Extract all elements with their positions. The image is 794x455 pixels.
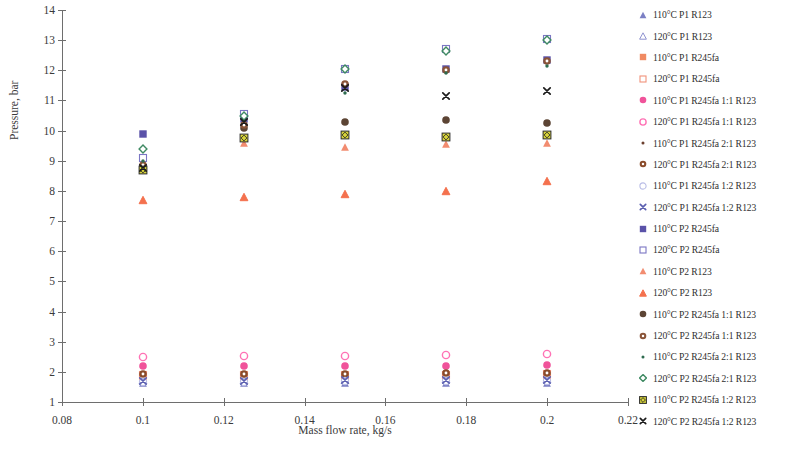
y-tick [58, 221, 66, 222]
y-tick-label: 9 [49, 155, 55, 167]
legend-item[interactable]: 120°C P1 R123 [636, 25, 794, 46]
legend-item[interactable]: 110°C P2 R245fa 1:1 R123 [636, 303, 794, 324]
legend-item-label: 110°C P2 R123 [653, 266, 712, 277]
legend-item[interactable]: 110°C P1 R245fa [636, 47, 794, 68]
data-point [138, 164, 147, 173]
data-point [239, 134, 248, 143]
legend-item-label: 120°C P1 R245fa [653, 73, 719, 84]
data-point [239, 192, 248, 201]
y-tick [58, 281, 66, 282]
legend-item-label: 120°C P2 R123 [653, 287, 712, 298]
y-tick-label: 8 [49, 185, 55, 197]
legend-item[interactable]: 120°C P1 R245fa 2:1 R123 [636, 154, 794, 175]
data-point [138, 376, 147, 385]
y-tick-label: 4 [49, 306, 55, 318]
data-point [442, 186, 451, 195]
legend-item[interactable]: 120°C P2 R245fa 2:1 R123 [636, 368, 794, 389]
legend-item-label: 110°C P2 R245fa 1:2 R123 [653, 394, 756, 405]
y-tick-label: 7 [49, 215, 55, 227]
legend-marker-icon [636, 243, 650, 257]
legend-item-label: 120°C P2 R245fa [653, 244, 719, 255]
data-point [442, 69, 451, 78]
legend-marker-icon [636, 329, 650, 343]
legend-item-label: 120°C P1 R245fa 2:1 R123 [653, 159, 756, 170]
legend-marker-icon [636, 50, 650, 64]
legend-item[interactable]: 120°C P1 R245fa [636, 68, 794, 89]
data-point [543, 87, 552, 96]
legend-item[interactable]: 110°C P1 R245fa 1:1 R123 [636, 90, 794, 111]
legend-marker-icon [636, 286, 650, 300]
data-point [442, 116, 451, 125]
x-tick [305, 398, 306, 406]
data-point [138, 129, 147, 138]
data-point [543, 36, 552, 45]
legend-item[interactable]: 110°C P1 R245fa 1:2 R123 [636, 175, 794, 196]
y-axis-line [62, 10, 63, 402]
legend-marker-icon [636, 371, 650, 385]
y-tick [58, 372, 66, 373]
data-point [543, 177, 552, 186]
legend-item[interactable]: 110°C P1 R123 [636, 4, 794, 25]
y-tick [58, 40, 66, 41]
y-tick-label: 6 [49, 245, 55, 257]
x-tick [385, 398, 386, 406]
legend-item[interactable]: 110°C P1 R245fa 2:1 R123 [636, 132, 794, 153]
y-tick [58, 312, 66, 313]
data-point [341, 84, 350, 93]
legend-marker-icon [636, 200, 650, 214]
legend-marker-icon [636, 136, 650, 150]
legend-item[interactable]: 110°C P2 R245fa 1:2 R123 [636, 389, 794, 410]
y-tick [58, 342, 66, 343]
legend-item[interactable]: 120°C P2 R245fa 1:1 R123 [636, 325, 794, 346]
legend-item-label: 120°C P1 R245fa 1:2 R123 [653, 202, 756, 213]
y-tick-label: 11 [44, 94, 55, 106]
legend-marker-icon [636, 157, 650, 171]
legend-item-label: 110°C P1 R123 [653, 9, 712, 20]
legend-item-label: 110°C P2 R245fa [653, 223, 719, 234]
legend-item-label: 110°C P1 R245fa 1:1 R123 [653, 95, 756, 106]
legend-item-label: 120°C P1 R245fa 1:1 R123 [653, 116, 756, 127]
data-point [138, 352, 147, 361]
legend-item-label: 120°C P1 R123 [653, 31, 712, 42]
y-tick-label: 10 [44, 125, 56, 137]
y-tick [58, 100, 66, 101]
data-point [138, 195, 147, 204]
data-point [239, 352, 248, 361]
legend-item[interactable]: 120°C P1 R245fa 1:2 R123 [636, 197, 794, 218]
legend-marker-icon [636, 393, 650, 407]
data-point [239, 376, 248, 385]
y-tick [58, 191, 66, 192]
x-tick [143, 398, 144, 406]
legend-item[interactable]: 120°C P1 R245fa 1:1 R123 [636, 111, 794, 132]
legend-item-label: 120°C P2 R245fa 1:1 R123 [653, 330, 756, 341]
legend-marker-icon [636, 8, 650, 22]
legend-item[interactable]: 110°C P2 R245fa [636, 218, 794, 239]
data-point [341, 117, 350, 126]
legend-item[interactable]: 110°C P2 R123 [636, 261, 794, 282]
data-point [442, 350, 451, 359]
data-point [543, 350, 552, 359]
legend-marker-icon [636, 115, 650, 129]
y-tick [58, 70, 66, 71]
legend-item-label: 120°C P2 R245fa 2:1 R123 [653, 373, 756, 384]
legend-item[interactable]: 120°C P2 R245fa [636, 239, 794, 260]
legend-item[interactable]: 120°C P2 R123 [636, 282, 794, 303]
y-tick [58, 10, 66, 11]
legend: 110°C P1 R123120°C P1 R123110°C P1 R245f… [636, 4, 794, 432]
x-tick [466, 398, 467, 406]
legend-item-label: 120°C P2 R245fa 1:2 R123 [653, 416, 756, 427]
legend-marker-icon [636, 414, 650, 428]
y-tick [58, 161, 66, 162]
data-point [442, 375, 451, 384]
data-point [341, 143, 350, 152]
data-point [543, 131, 552, 140]
legend-item-label: 110°C P1 R245fa 1:2 R123 [653, 180, 756, 191]
legend-marker-icon [636, 307, 650, 321]
y-tick-label: 2 [49, 366, 55, 378]
x-tick [62, 398, 63, 406]
data-point [442, 91, 451, 100]
data-point [138, 144, 147, 153]
legend-item-label: 110°C P2 R245fa 1:1 R123 [653, 309, 756, 320]
legend-item[interactable]: 120°C P2 R245fa 1:2 R123 [636, 410, 794, 431]
legend-item[interactable]: 110°C P2 R245fa 2:1 R123 [636, 346, 794, 367]
